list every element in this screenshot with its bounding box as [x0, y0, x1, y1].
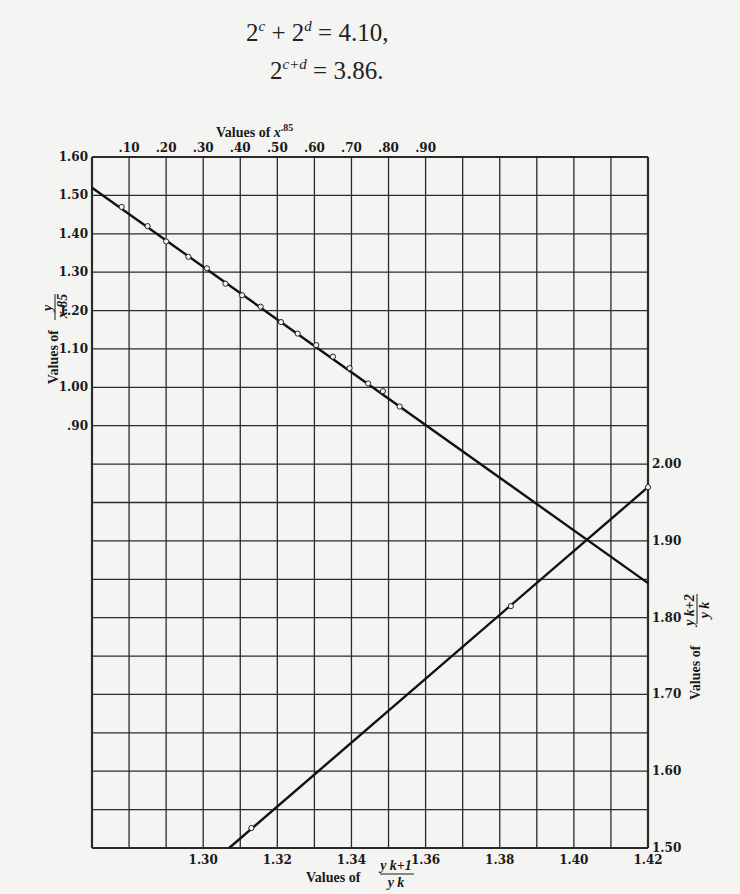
svg-text:Values of: Values of [688, 645, 703, 700]
right-tick-label: 1.90 [652, 534, 681, 548]
data-point [186, 254, 191, 259]
left-tick-label: 1.40 [59, 227, 88, 241]
top-tick-label: .10 [119, 141, 140, 155]
data-point [278, 319, 283, 324]
data-point [258, 304, 263, 309]
data-point [204, 266, 209, 271]
top-tick-label: .40 [230, 141, 251, 155]
top-tick-label: .20 [156, 141, 177, 155]
top-axis-title: Values of x.85 [216, 122, 293, 140]
bottom-tick-label: 1.38 [485, 853, 514, 867]
right-tick-label: 1.80 [652, 611, 681, 625]
svg-text:y k+1: y k+1 [378, 858, 412, 873]
bottom-tick-label: 1.42 [633, 853, 662, 867]
left-axis-title: Values of y x.85 [40, 294, 70, 385]
series [92, 188, 651, 848]
data-point [330, 354, 335, 359]
data-point [223, 281, 228, 286]
data-point [145, 224, 150, 229]
data-point [366, 381, 371, 386]
top-tick-label: .80 [378, 141, 399, 155]
bottom-tick-label: 1.34 [337, 853, 366, 867]
svg-text:x.85: x.85 [55, 294, 70, 320]
data-point [645, 485, 650, 490]
left-tick-label: 1.00 [59, 380, 88, 394]
data-point [508, 604, 513, 609]
right-tick-label: 1.60 [652, 764, 681, 778]
bottom-tick-label: 1.36 [411, 853, 440, 867]
left-tick-label: 1.60 [59, 150, 88, 164]
top-tick-label: .90 [415, 141, 436, 155]
bottom-tick-label: 1.40 [559, 853, 588, 867]
data-point [314, 343, 319, 348]
data-point [249, 825, 254, 830]
top-tick-label: .50 [267, 141, 288, 155]
svg-text:y k: y k [386, 875, 405, 890]
svg-text:y k: y k [697, 602, 712, 621]
svg-text:Values of: Values of [306, 870, 361, 885]
data-point [397, 404, 402, 409]
svg-text:y: y [40, 304, 55, 313]
top-tick-label: .60 [304, 141, 325, 155]
data-point [380, 389, 385, 394]
bottom-tick-label: 1.30 [189, 853, 218, 867]
svg-text:Values of: Values of [46, 330, 61, 385]
left-tick-label: 1.10 [59, 342, 88, 356]
left-tick-label: 1.30 [59, 265, 88, 279]
axis-labels: .10.20.30.40.50.60.70.80.901.601.501.401… [59, 141, 681, 867]
top-tick-label: .70 [341, 141, 362, 155]
data-point [119, 204, 124, 209]
grid [92, 157, 648, 848]
data-point [295, 331, 300, 336]
data-point [240, 293, 245, 298]
chart: .10.20.30.40.50.60.70.80.901.601.501.401… [0, 0, 740, 894]
left-tick-label: 1.50 [59, 188, 88, 202]
right-axis-title: Values of y k+2 y k [682, 594, 712, 700]
top-tick-label: .30 [193, 141, 214, 155]
data-point [164, 239, 169, 244]
right-tick-label: 2.00 [652, 457, 681, 471]
bottom-tick-label: 1.32 [263, 853, 292, 867]
data-point [347, 366, 352, 371]
right-tick-label: 1.70 [652, 687, 681, 701]
svg-text:y k+2: y k+2 [682, 594, 697, 628]
left-tick-label: .90 [67, 419, 88, 433]
